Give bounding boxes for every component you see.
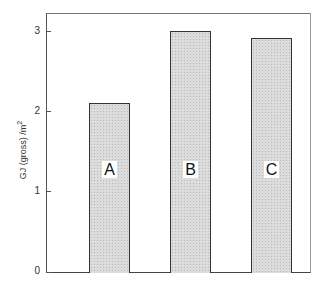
bar-label-b-text: B: [183, 161, 198, 178]
y-axis-label-text: GJ (gross) /m: [18, 125, 28, 180]
bar-label-c-text: C: [264, 161, 280, 178]
y-tick-label-3: 3: [26, 25, 40, 36]
bar-label-c: C: [251, 161, 292, 179]
bar-b: [170, 31, 211, 273]
y-tick-3: [46, 31, 51, 32]
bar-label-a: A: [89, 161, 130, 179]
bar-label-a-text: A: [102, 161, 117, 178]
bar-label-b: B: [170, 161, 211, 179]
y-tick-label-2: 2: [26, 105, 40, 116]
y-axis-label: GJ (gross) /m2: [16, 121, 28, 179]
y-axis-label-superscript: 2: [16, 121, 23, 125]
y-tick-label-0: 0: [26, 265, 40, 276]
bar-a: [89, 103, 130, 273]
bar-c: [251, 38, 292, 273]
y-tick-label-1: 1: [26, 185, 40, 196]
y-tick-0: [46, 272, 51, 273]
y-tick-1: [46, 191, 51, 192]
y-tick-2: [46, 111, 51, 112]
